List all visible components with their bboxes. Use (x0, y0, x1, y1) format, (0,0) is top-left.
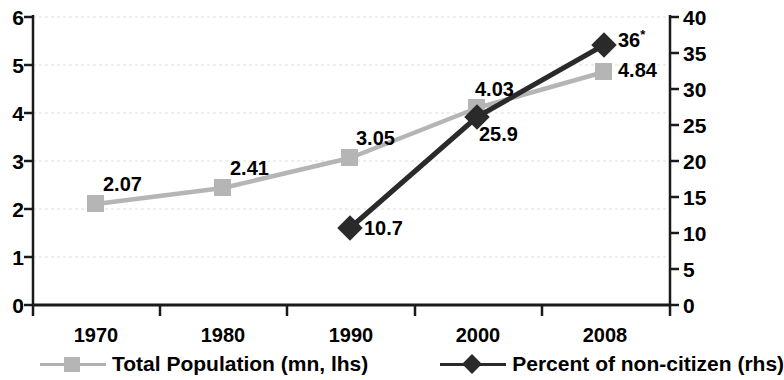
y-left-tick-1: 1 (0, 247, 24, 268)
y-left-tick-2: 2 (0, 199, 24, 220)
left-axis-ticks (24, 17, 33, 305)
data-label-percent-1990: 10.7 (364, 218, 403, 238)
series-line-total-population (96, 72, 604, 204)
x-axis-ticks (33, 305, 670, 316)
y-right-tick-40: 40 (683, 7, 717, 28)
right-axis-ticks (670, 17, 679, 305)
legend-marker-square-icon (40, 353, 106, 375)
data-label-population-2008: 4.84 (618, 60, 657, 80)
data-label-population-2000: 4.03 (475, 79, 514, 99)
legend-item-percent-noncitizen[interactable]: Percent of non-citizen (rhs) (440, 353, 784, 375)
x-tick-1970: 1970 (51, 325, 141, 345)
data-label-percent-2000: 25.9 (479, 124, 518, 144)
data-label-population-1980: 2.41 (230, 158, 269, 178)
data-label-percent-2008: 36* (618, 30, 645, 50)
x-tick-2000: 2000 (433, 325, 523, 345)
y-left-tick-5: 5 (0, 55, 24, 76)
data-label-population-1970: 2.07 (103, 174, 142, 194)
legend-marker-diamond-icon (440, 353, 506, 375)
y-right-tick-5: 5 (683, 259, 717, 280)
chart-legend: Total Population (mn, lhs) Percent of no… (0, 347, 702, 380)
legend-label-percent-noncitizen: Percent of non-citizen (rhs) (512, 353, 784, 374)
y-right-tick-15: 15 (683, 187, 717, 208)
y-right-tick-35: 35 (683, 43, 717, 64)
legend-item-total-population[interactable]: Total Population (mn, lhs) (40, 353, 368, 375)
y-right-tick-10: 10 (683, 223, 717, 244)
footnote-asterisk: * (640, 27, 645, 42)
x-tick-1990: 1990 (306, 325, 396, 345)
y-right-tick-0: 0 (683, 295, 717, 316)
y-left-tick-6: 6 (0, 7, 24, 28)
data-label-percent-2008-value: 36 (618, 29, 640, 51)
y-right-tick-20: 20 (683, 151, 717, 172)
data-label-population-1990: 3.05 (356, 128, 395, 148)
y-right-tick-30: 30 (683, 79, 717, 100)
x-tick-2008: 2008 (560, 325, 650, 345)
legend-label-total-population: Total Population (mn, lhs) (112, 353, 368, 374)
y-right-tick-25: 25 (683, 115, 717, 136)
y-left-tick-0: 0 (0, 295, 24, 316)
y-left-tick-4: 4 (0, 103, 24, 124)
y-left-tick-3: 3 (0, 151, 24, 172)
x-tick-1980: 1980 (178, 325, 268, 345)
